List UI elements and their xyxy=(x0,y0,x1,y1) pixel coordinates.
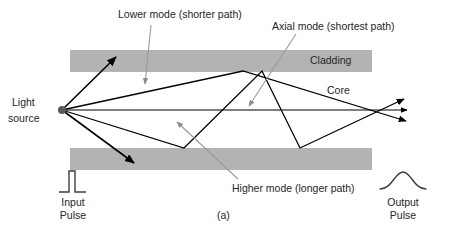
cladding-bar-bottom xyxy=(70,148,372,170)
label-higher-mode: Higher mode (longer path) xyxy=(232,182,355,195)
label-lower-mode: Lower mode (shorter path) xyxy=(118,8,242,21)
label-core: Core xyxy=(327,84,350,97)
output-pulse-waveform xyxy=(380,172,426,189)
input-pulse-waveform xyxy=(59,171,86,192)
label-output-pulse-line1: Output xyxy=(379,196,427,209)
figure-caption: (a) xyxy=(217,209,230,222)
ray-lower-mode xyxy=(62,71,406,121)
optical-fiber-mode-dispersion-diagram: Lower mode (shorter path) Axial mode (sh… xyxy=(0,0,449,248)
label-light-source-line2: source xyxy=(8,112,40,125)
label-cladding: Cladding xyxy=(310,54,351,67)
label-axial-mode: Axial mode (shortest path) xyxy=(272,20,395,33)
light-source-point xyxy=(58,106,66,114)
label-input-pulse-line2: Pulse xyxy=(52,209,94,222)
label-light-source-line1: Light xyxy=(12,96,35,109)
label-output-pulse-line2: Pulse xyxy=(379,209,427,222)
label-input-pulse-line1: Input xyxy=(52,196,94,209)
